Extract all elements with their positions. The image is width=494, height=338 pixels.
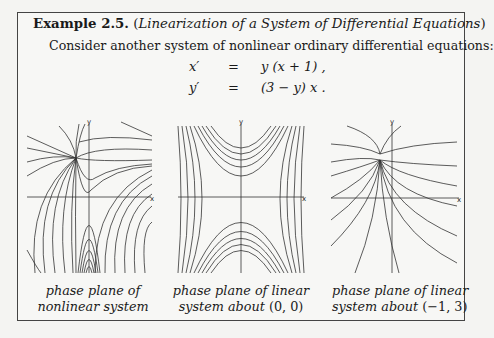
equation-2-rhs: (3 − y) x . — [261, 80, 326, 95]
caption-linear-origin: phase plane of linear system about (0, 0… — [168, 283, 314, 315]
equation-2-equals: = — [228, 80, 239, 95]
equation-2-lhs: y′ — [189, 80, 199, 95]
example-title: Linearization of a System of Differentia… — [138, 16, 480, 31]
x-axis-label: x — [150, 195, 154, 203]
equation-1-rhs: y (x + 1) , — [261, 59, 326, 74]
equation-1-equals: = — [228, 59, 239, 74]
example-label: Example 2.5. — [33, 16, 129, 31]
y-axis-label: y — [239, 118, 243, 126]
phase-plane-nonlinear: y x — [25, 118, 157, 273]
x-axis-label: x — [457, 196, 461, 204]
caption-linear-minus1-3: phase plane of linear system about (−1, … — [332, 283, 460, 315]
y-axis-label: y — [87, 118, 91, 126]
phase-plane-linear-origin: y x — [176, 118, 308, 273]
example-heading: Example 2.5. (Linearization of a System … — [33, 16, 486, 31]
y-axis-label: y — [390, 118, 394, 126]
x-axis-label: x — [302, 195, 306, 203]
caption-nonlinear: phase plane of nonlinear system — [28, 283, 158, 315]
equation-1-lhs: x′ — [189, 59, 199, 74]
phase-plane-linear-minus1-3: y x — [329, 118, 463, 273]
intro-text: Consider another system of nonlinear ord… — [49, 38, 494, 53]
